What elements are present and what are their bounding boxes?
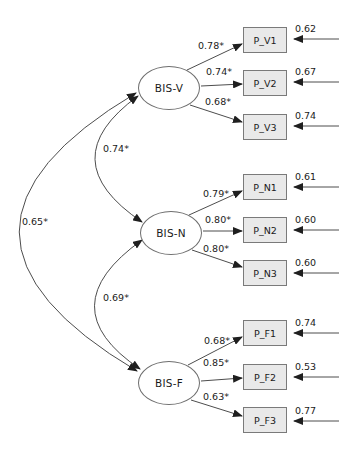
correlation-label-bisv-bisn: 0.74* (103, 143, 129, 154)
error-label-p-n2: 0.60 (295, 214, 316, 225)
loading-label-p-f2: 0.85* (198, 357, 234, 368)
loading-label-p-v2: 0.74* (201, 66, 237, 77)
loading-arrow-pf3 (191, 400, 242, 416)
error-label-p-f2: 0.53 (295, 361, 316, 372)
indicator-label: P_V1 (253, 35, 276, 46)
error-label-p-n1: 0.61 (295, 171, 316, 182)
loading-label-p-f1: 0.68* (199, 335, 235, 346)
loading-label-p-n2: 0.80* (200, 214, 236, 225)
error-label-p-v3: 0.74 (295, 110, 316, 121)
latent-label: BIS-F (155, 377, 183, 389)
correlation-label-bisn-bisf: 0.69* (103, 292, 129, 303)
indicator-label: P_V2 (253, 78, 276, 89)
correlation-label-bisv-bisf: 0.65* (22, 216, 48, 227)
indicator-box-p-v2: P_V2 (243, 70, 287, 96)
indicator-box-p-f3: P_F3 (243, 407, 287, 433)
indicator-label: P_N1 (253, 182, 277, 193)
loading-arrow-pf2 (201, 378, 242, 381)
indicator-box-p-n2: P_N2 (243, 217, 287, 243)
indicator-label: P_V3 (253, 122, 276, 133)
error-label-p-v2: 0.67 (295, 66, 316, 77)
loading-label-p-n3: 0.80* (198, 243, 234, 254)
loading-label-p-v3: 0.68* (200, 96, 236, 107)
indicator-box-p-v3: P_V3 (243, 114, 287, 140)
latent-label: BIS-V (155, 82, 183, 94)
error-label-p-v1: 0.62 (295, 23, 316, 34)
error-label-p-f3: 0.77 (295, 405, 316, 416)
indicator-box-p-f2: P_F2 (243, 364, 287, 390)
loading-label-p-n1: 0.79* (198, 188, 234, 199)
latent-label: BIS-N (156, 227, 186, 239)
indicator-label: P_F1 (254, 328, 276, 339)
loading-label-p-v1: 0.78* (193, 40, 229, 51)
indicator-box-p-f1: P_F1 (243, 320, 287, 346)
sem-path-diagram: BIS-V BIS-N BIS-F P_V1 P_V2 P_V3 P_N1 P_… (0, 0, 339, 456)
indicator-label: P_N3 (253, 268, 277, 279)
latent-node-bis-n: BIS-N (140, 211, 202, 255)
latent-node-bis-f: BIS-F (138, 361, 200, 405)
indicator-box-p-n3: P_N3 (243, 260, 287, 286)
loading-arrow-pv3 (190, 105, 242, 122)
indicator-box-p-n1: P_N1 (243, 174, 287, 200)
indicator-label: P_F2 (254, 372, 276, 383)
correlation-curve-bisn-bisf (94, 240, 142, 369)
indicator-label: P_N2 (253, 225, 277, 236)
error-label-p-n3: 0.60 (295, 257, 316, 268)
indicator-box-p-v1: P_V1 (243, 27, 287, 53)
indicator-label: P_F3 (254, 415, 276, 426)
loading-arrow-pv2 (201, 84, 242, 86)
error-label-p-f1: 0.74 (295, 317, 316, 328)
correlation-curve-bisv-bisf (19, 93, 137, 371)
latent-node-bis-v: BIS-V (138, 66, 200, 110)
loading-label-p-f3: 0.63* (198, 391, 234, 402)
